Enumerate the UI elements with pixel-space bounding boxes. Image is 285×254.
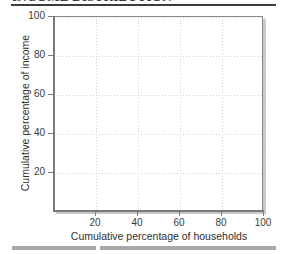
y-axis-tick — [48, 16, 53, 17]
gridline-horizontal — [54, 95, 262, 96]
y-axis-tick — [48, 133, 53, 134]
y-axis-tick-label: 20 — [16, 166, 45, 177]
gridline-vertical — [96, 17, 97, 210]
footer-divider-rule — [12, 246, 276, 250]
x-axis-tick-label: 60 — [164, 217, 194, 228]
x-axis-line — [53, 210, 264, 212]
x-axis-tick — [95, 212, 96, 216]
x-axis-label: Cumulative percentage of households — [53, 230, 265, 242]
x-axis-tick — [263, 212, 264, 216]
gridline-vertical — [180, 17, 181, 210]
x-axis-tick — [179, 212, 180, 216]
y-axis-line — [53, 16, 55, 212]
gridline-horizontal — [54, 134, 262, 135]
x-axis-tick-label: 20 — [80, 217, 110, 228]
y-axis-tick-label: 40 — [16, 127, 45, 138]
gridline-vertical — [264, 17, 265, 210]
y-axis-tick-label: 100 — [16, 10, 45, 21]
x-axis-tick-label: 100 — [248, 217, 278, 228]
y-axis-tick — [48, 55, 53, 56]
plot-area — [53, 16, 263, 211]
gridline-vertical — [138, 17, 139, 210]
x-axis-tick — [137, 212, 138, 216]
y-axis-tick — [48, 94, 53, 95]
footer-rule-gap — [96, 246, 100, 250]
y-axis-tick-label: 60 — [16, 88, 45, 99]
y-axis-tick-label: 80 — [16, 49, 45, 60]
x-axis-tick — [221, 212, 222, 216]
x-axis-tick-label: 80 — [206, 217, 236, 228]
y-axis-label: Cumulative percentage of income — [19, 3, 31, 223]
gridline-horizontal — [54, 17, 262, 18]
chart-figure: Cumulative percentage of households Cumu… — [0, 0, 285, 254]
y-axis-tick — [48, 172, 53, 173]
x-axis-tick-label: 40 — [122, 217, 152, 228]
gridline-horizontal — [54, 173, 262, 174]
gridline-horizontal — [54, 56, 262, 57]
gridline-vertical — [222, 17, 223, 210]
